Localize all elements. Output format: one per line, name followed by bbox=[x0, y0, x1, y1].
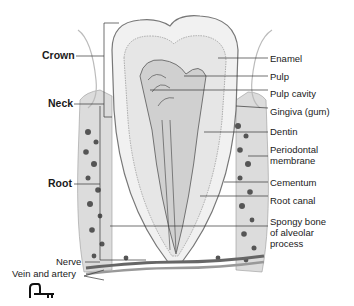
label-vein-artery: Vein and artery bbox=[12, 268, 76, 279]
label-pulp-cavity: Pulp cavity bbox=[270, 88, 316, 99]
label-root: Root bbox=[48, 178, 72, 189]
key-icon bbox=[30, 284, 54, 298]
label-gingiva: Gingiva (gum) bbox=[270, 106, 330, 117]
label-cementum: Cementum bbox=[270, 177, 316, 188]
label-enamel: Enamel bbox=[270, 53, 302, 64]
label-spongy-bone: Spongy bone bbox=[270, 216, 326, 227]
label-alveolar: of alveolar bbox=[270, 227, 314, 238]
label-periodontal: Periodontal bbox=[270, 144, 318, 155]
label-process: process bbox=[270, 238, 303, 249]
label-pulp: Pulp bbox=[270, 71, 289, 82]
label-membrane: membrane bbox=[270, 155, 315, 166]
label-nerve: Nerve bbox=[56, 256, 81, 267]
label-dentin: Dentin bbox=[270, 126, 297, 137]
label-crown: Crown bbox=[42, 50, 75, 61]
label-neck: Neck bbox=[48, 98, 73, 109]
label-root-canal: Root canal bbox=[270, 195, 315, 206]
